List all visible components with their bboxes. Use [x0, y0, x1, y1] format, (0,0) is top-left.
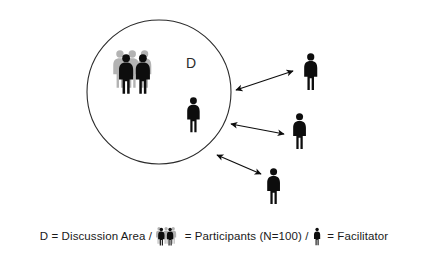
arrow-top — [236, 71, 293, 90]
facilitator-icon — [312, 226, 324, 246]
arrow-bottom — [217, 155, 261, 174]
legend-text-facilitator: = Facilitator — [324, 230, 388, 242]
discussion-area-label: D — [186, 55, 196, 71]
legend: D = Discussion Area / = Participants (N=… — [0, 222, 428, 250]
discussion-area-circle — [87, 20, 231, 164]
figure-canvas: D D = Discussion Area / = Participants (… — [0, 0, 428, 259]
facilitator-outer-top — [304, 53, 317, 90]
arrow-middle — [231, 124, 284, 134]
participants-cluster — [113, 50, 151, 94]
diagram-svg — [0, 0, 428, 259]
facilitator-outer-middle — [293, 113, 306, 149]
participants-icon — [155, 226, 181, 246]
legend-text-discussion-area: D = Discussion Area / — [40, 230, 156, 242]
facilitator-inside-circle — [187, 97, 199, 132]
facilitator-outer-bottom — [267, 168, 280, 204]
legend-text-participants: = Participants (N=100) / — [181, 230, 311, 242]
